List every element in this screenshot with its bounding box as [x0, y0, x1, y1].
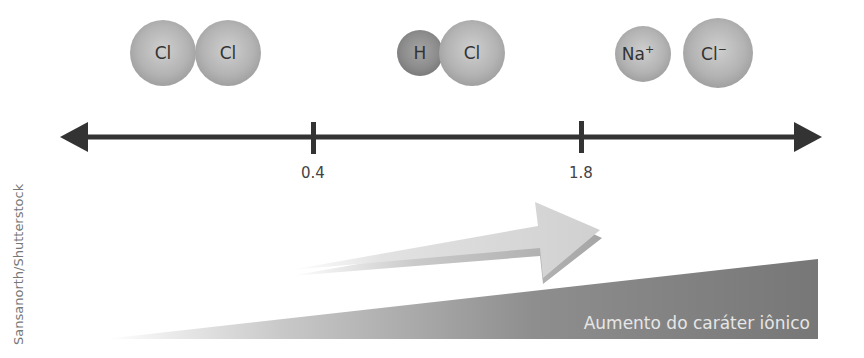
- atom-label: Cl: [220, 43, 237, 63]
- molecule-hcl: H Cl: [397, 20, 505, 86]
- trend-label: Aumento do caráter iônico: [584, 313, 810, 333]
- image-credit: Sansanorth/Shutterstock: [6, 95, 30, 345]
- left-arrowhead-icon: [60, 122, 88, 152]
- trend-arrow-icon: [290, 202, 602, 284]
- credit-text: Sansanorth/Shutterstock: [11, 184, 26, 345]
- tick-label: 1.8: [569, 164, 593, 182]
- ionic-character-wedge: Aumento do caráter iônico: [105, 259, 818, 339]
- atom-label: Cl: [464, 43, 481, 63]
- tick-mark: [311, 122, 316, 154]
- electronegativity-diagram: Cl Cl H Cl Na+ Cl− 0.4 1.8 Aumento: [0, 0, 864, 358]
- atom-label: Cl: [155, 43, 172, 63]
- molecule-nacl: Na+ Cl−: [615, 18, 753, 88]
- tick-label: 0.4: [301, 164, 325, 182]
- atom-label: H: [414, 43, 427, 63]
- electronegativity-axis: 0.4 1.8: [60, 121, 822, 182]
- right-arrowhead-icon: [794, 122, 822, 152]
- tick-mark: [579, 121, 584, 153]
- molecule-cl2: Cl Cl: [130, 20, 261, 86]
